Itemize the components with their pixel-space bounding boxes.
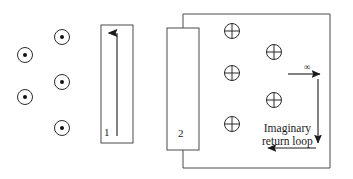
infinity-symbol-label: ∞ bbox=[304, 62, 310, 72]
current-out-of-page-marker bbox=[55, 30, 70, 45]
diagram-canvas bbox=[0, 0, 353, 179]
caption-line-2: return loop bbox=[262, 135, 313, 148]
physics-diagram-figure: 1 2 ∞ Imaginary return loop bbox=[0, 0, 353, 179]
conductor-1-label: 1 bbox=[104, 126, 110, 138]
current-into-page-marker-group bbox=[225, 24, 282, 132]
current-into-page-marker bbox=[225, 66, 240, 81]
current-into-page-marker bbox=[225, 117, 240, 132]
current-out-of-page-marker bbox=[18, 48, 33, 63]
current-out-of-page-marker bbox=[55, 75, 70, 90]
caption-line-1: Imaginary bbox=[262, 122, 313, 135]
conductor-2-label: 2 bbox=[178, 127, 184, 139]
current-into-page-marker bbox=[267, 45, 282, 60]
current-out-of-page-marker-group bbox=[18, 30, 70, 136]
current-into-page-marker bbox=[267, 93, 282, 108]
current-into-page-marker bbox=[225, 24, 240, 39]
conductor-group bbox=[101, 25, 199, 150]
imaginary-return-loop-caption: Imaginary return loop bbox=[262, 122, 313, 148]
current-out-of-page-marker bbox=[55, 121, 70, 136]
current-out-of-page-marker bbox=[18, 90, 33, 105]
